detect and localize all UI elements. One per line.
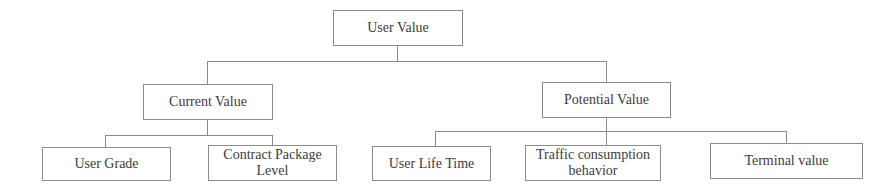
node-user-value: User Value bbox=[333, 10, 463, 46]
connector-potential-children-bar bbox=[435, 131, 787, 132]
node-user-grade: User Grade bbox=[42, 147, 171, 181]
connector-contract-in bbox=[272, 135, 273, 145]
connector-user-grade-in bbox=[105, 135, 106, 147]
connector-current-children-bar bbox=[105, 135, 273, 136]
node-user-life-time: User Life Time bbox=[372, 146, 491, 181]
connector-life-time-in bbox=[435, 131, 436, 146]
connector-traffic-in bbox=[606, 131, 607, 145]
connector-current-in bbox=[207, 61, 208, 84]
connector-level1-bar bbox=[207, 61, 607, 62]
node-current-value: Current Value bbox=[143, 84, 273, 120]
node-potential-value: Potential Value bbox=[542, 82, 671, 118]
connector-current-stem bbox=[207, 119, 208, 135]
connector-terminal-in bbox=[786, 131, 787, 143]
connector-potential-in bbox=[606, 61, 607, 82]
node-terminal-value: Terminal value bbox=[710, 143, 863, 179]
node-traffic-consumption-behavior: Traffic consumption behavior bbox=[525, 145, 661, 181]
connector-root-stem bbox=[397, 45, 398, 61]
connector-potential-stem bbox=[606, 117, 607, 131]
node-contract-package-level: Contract Package Level bbox=[208, 145, 337, 181]
